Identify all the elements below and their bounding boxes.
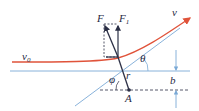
force-F-arrow bbox=[105, 26, 118, 57]
label-F: F bbox=[96, 12, 104, 24]
label-b: b bbox=[170, 74, 176, 86]
label-theta: θ bbox=[140, 52, 146, 64]
label-F1: F1 bbox=[118, 12, 129, 26]
label-r: r bbox=[126, 69, 131, 81]
label-phi: φ bbox=[109, 73, 115, 85]
label-v: v bbox=[172, 6, 177, 18]
phi-arc bbox=[116, 81, 119, 90]
label-v0: v0 bbox=[22, 50, 31, 64]
label-A: A bbox=[124, 92, 132, 104]
scattering-diagram: v0 v F F1 θ φ r A b bbox=[0, 0, 199, 111]
